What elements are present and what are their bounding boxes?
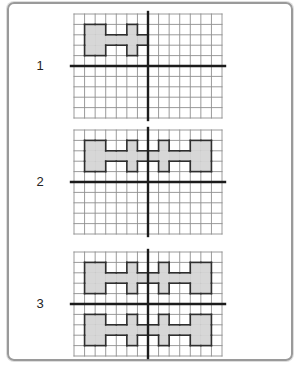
panel-3-coordinate-grid xyxy=(74,252,222,356)
panel-3-label: 3 xyxy=(28,296,52,312)
panel-1-coordinate-grid xyxy=(74,14,222,118)
panel-2-coordinate-grid xyxy=(74,130,222,234)
panel-2-label: 2 xyxy=(28,174,52,190)
figure-page: 1 2 3 xyxy=(0,0,302,368)
panel-1-label: 1 xyxy=(28,58,52,74)
